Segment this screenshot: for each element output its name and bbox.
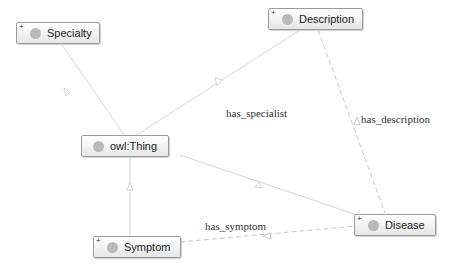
class-icon [93,141,104,152]
node-owl-thing[interactable]: owl:Thing [81,135,169,157]
node-label: Specialty [47,27,92,39]
arrow-icon [354,117,360,125]
edge-label-has-specialist: has_specialist [226,107,287,119]
class-icon [368,220,379,231]
ontology-graph-canvas[interactable]: has_specialist has_description has_sympt… [0,0,451,273]
node-specialty[interactable]: + Specialty [16,22,100,44]
class-icon [107,242,118,253]
edge-specialty-thing [60,42,125,136]
node-disease[interactable]: + Disease [354,214,436,236]
class-icon [282,14,293,25]
expand-icon[interactable]: + [96,237,101,245]
edge-label-has-symptom: has_symptom [205,220,266,232]
node-label: Description [299,13,354,25]
arrow-icon [127,183,133,190]
expand-icon[interactable]: + [271,9,276,17]
arrow-icon [215,78,222,86]
node-label: Symptom [124,241,170,253]
node-symptom[interactable]: + Symptom [93,236,181,258]
expand-icon[interactable]: + [19,23,24,31]
edge-label-has-description: has_description [361,113,430,125]
expand-icon[interactable]: + [357,215,362,223]
node-label: owl:Thing [110,140,157,152]
arrow-icon [64,88,70,96]
edge-disease-thing [180,155,360,216]
class-icon [30,28,41,39]
node-label: Disease [385,219,425,231]
node-description[interactable]: + Description [268,8,363,30]
